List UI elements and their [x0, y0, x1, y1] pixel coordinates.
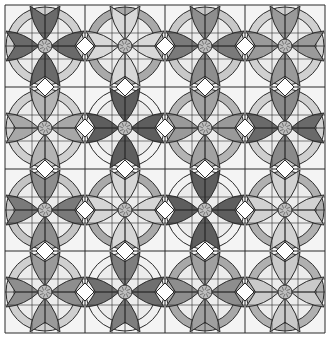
medallion [118, 285, 132, 299]
medallion [278, 285, 292, 299]
quilt-pattern [0, 0, 327, 337]
medallion [198, 285, 212, 299]
medallion [198, 39, 212, 53]
medallion [118, 203, 132, 217]
medallion [38, 39, 52, 53]
medallion [38, 203, 52, 217]
medallion [118, 39, 132, 53]
medallion [38, 121, 52, 135]
medallion [198, 121, 212, 135]
medallion [198, 203, 212, 217]
medallion [278, 121, 292, 135]
medallion [118, 121, 132, 135]
medallion [38, 285, 52, 299]
medallion [278, 39, 292, 53]
medallion [278, 203, 292, 217]
